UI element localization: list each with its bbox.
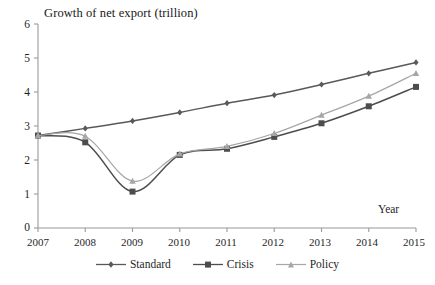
legend-swatch-standard-icon xyxy=(96,259,126,270)
data-point-marker xyxy=(366,103,372,109)
legend-item-crisis[interactable]: Crisis xyxy=(193,258,254,270)
x-axis-ticks xyxy=(38,228,416,232)
data-point-marker xyxy=(319,120,325,126)
data-point-marker xyxy=(413,84,419,90)
legend-label-crisis: Crisis xyxy=(227,258,254,270)
data-point-marker xyxy=(83,125,88,131)
data-point-marker xyxy=(82,139,88,145)
legend-label-standard: Standard xyxy=(130,258,171,270)
chart-legend: Standard Crisis Policy xyxy=(0,258,435,270)
y-axis-ticks xyxy=(34,24,38,228)
data-point-marker xyxy=(366,70,371,76)
data-point-marker xyxy=(413,59,418,65)
legend-swatch-policy-icon xyxy=(276,259,306,270)
data-series-layer xyxy=(35,59,419,194)
legend-label-policy: Policy xyxy=(310,258,339,270)
legend-item-policy[interactable]: Policy xyxy=(276,258,339,270)
data-point-marker xyxy=(130,118,135,124)
chart-container: Growth of net export (trillion) 6 5 4 3 … xyxy=(0,0,435,285)
data-point-marker xyxy=(224,100,229,106)
data-point-marker xyxy=(272,92,277,98)
data-point-marker xyxy=(177,109,182,115)
legend-item-standard[interactable]: Standard xyxy=(96,258,171,270)
series-line xyxy=(38,62,416,135)
data-point-marker xyxy=(319,81,324,87)
legend-swatch-crisis-icon xyxy=(193,259,223,270)
chart-plot-svg xyxy=(0,0,435,285)
data-point-marker xyxy=(413,70,419,76)
data-point-marker xyxy=(130,189,136,195)
